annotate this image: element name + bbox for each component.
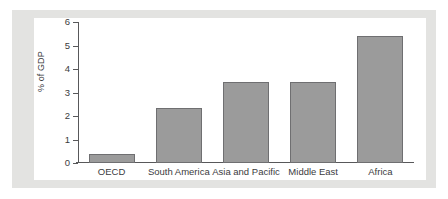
bar (89, 154, 135, 163)
x-axis-tick-label: OECD (98, 167, 125, 177)
y-axis-title: % of GDP (36, 51, 46, 92)
bar-series: OECDSouth AmericaAsia and PacificMiddle … (78, 22, 414, 163)
bar (357, 36, 403, 163)
bar-group: OECD (78, 22, 145, 163)
bar-group: South America (145, 22, 212, 163)
y-axis-tick-label: 1 (65, 135, 70, 145)
y-axis-tick-label: 6 (65, 17, 70, 27)
y-axis-tick-label: 0 (65, 158, 70, 168)
y-axis-tick-label: 4 (65, 64, 70, 74)
x-axis-tick-label: Middle East (288, 167, 338, 177)
y-axis-tick-label: 5 (65, 41, 70, 51)
bar-group: Asia and Pacific (212, 22, 279, 163)
y-axis-tick-label: 3 (65, 88, 70, 98)
bar-group: Middle East (280, 22, 347, 163)
x-axis-tick-label: Asia and Pacific (212, 167, 280, 177)
y-axis-tick-mark (73, 163, 78, 164)
bar-chart-figure: % of GDP 0123456 OECDSouth AmericaAsia a… (0, 0, 448, 199)
x-axis-tick-label: South America (148, 167, 210, 177)
plot-area: 0123456 OECDSouth AmericaAsia and Pacifi… (78, 22, 414, 163)
x-axis-tick-label: Africa (368, 167, 392, 177)
bar-group: Africa (347, 22, 414, 163)
bar (223, 82, 269, 163)
bar (156, 108, 202, 163)
y-axis-tick-label: 2 (65, 111, 70, 121)
bar (290, 82, 336, 163)
